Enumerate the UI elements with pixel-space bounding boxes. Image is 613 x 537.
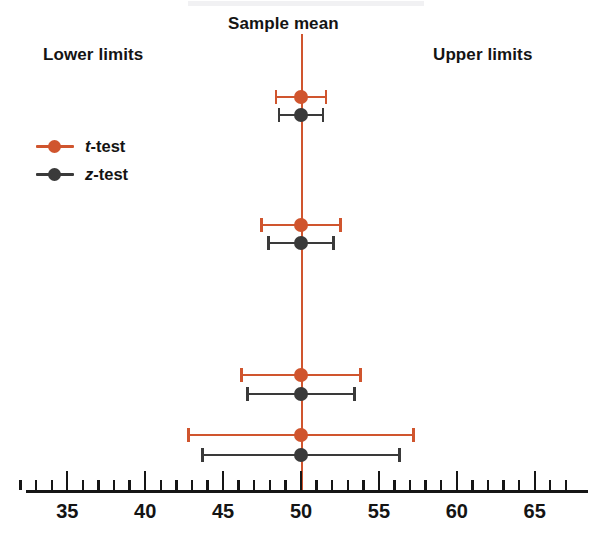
interval-cap-upper	[322, 108, 325, 122]
x-tick-label-35: 35	[56, 500, 78, 523]
x-tick-35	[66, 471, 68, 490]
x-tick-60	[456, 471, 458, 490]
x-tick-66	[549, 480, 551, 490]
x-tick-48	[269, 480, 271, 490]
x-tick-54	[362, 480, 364, 490]
interval-cap-lower	[201, 448, 204, 462]
interval-center-marker	[294, 236, 308, 250]
interval-cap-lower	[187, 428, 190, 442]
interval-cap-upper	[398, 448, 401, 462]
x-tick-34	[51, 480, 53, 490]
interval-z-test-group-3	[246, 387, 355, 401]
legend-item-z-test: z-test	[34, 160, 128, 188]
x-tick-55	[378, 471, 380, 490]
interval-cap-lower	[278, 108, 281, 122]
x-tick-52	[331, 480, 333, 490]
interval-z-test-group-1	[278, 108, 325, 122]
x-tick-label-40: 40	[134, 500, 156, 523]
x-tick-42	[175, 480, 177, 490]
x-tick-43	[191, 480, 193, 490]
x-tick-40	[144, 471, 146, 490]
interval-center-marker	[294, 368, 308, 382]
x-tick-39	[128, 480, 130, 490]
x-tick-label-60: 60	[446, 500, 468, 523]
interval-cap-lower	[267, 236, 270, 250]
x-tick-41	[160, 480, 162, 490]
x-tick-63	[502, 480, 504, 490]
interval-cap-upper	[353, 387, 356, 401]
legend-label-t-test: t-test	[85, 137, 125, 156]
x-tick-62	[487, 480, 489, 490]
x-tick-33	[35, 480, 37, 490]
legend-suffix-z: -test	[93, 165, 128, 183]
x-tick-32	[19, 480, 21, 490]
interval-t-test-group-1	[275, 90, 328, 104]
upper-limits-label: Upper limits	[433, 45, 532, 65]
chart-canvas: Sample mean Lower limits Upper limits t-…	[0, 0, 613, 537]
interval-center-marker	[294, 428, 308, 442]
x-tick-44	[206, 480, 208, 490]
x-tick-label-65: 65	[524, 500, 546, 523]
sample-mean-label: Sample mean	[228, 14, 339, 34]
interval-cap-upper	[359, 368, 362, 382]
scan-artifact	[188, 1, 424, 6]
interval-center-marker	[294, 387, 308, 401]
x-tick-45	[222, 471, 224, 490]
interval-cap-upper	[412, 428, 415, 442]
x-tick-58	[424, 480, 426, 490]
legend-suffix-t: -test	[91, 137, 126, 155]
interval-cap-upper	[332, 236, 335, 250]
legend-marker-z-test-icon	[34, 167, 76, 181]
interval-cap-lower	[246, 387, 249, 401]
x-tick-46	[237, 480, 239, 490]
interval-t-test-group-3	[240, 368, 362, 382]
interval-cap-lower	[275, 90, 278, 104]
x-tick-56	[393, 480, 395, 490]
interval-t-test-group-4	[187, 428, 414, 442]
legend-label-z-test: z-test	[85, 165, 128, 184]
interval-t-test-group-2	[260, 218, 341, 232]
x-tick-label-50: 50	[290, 500, 312, 523]
interval-cap-upper	[339, 218, 342, 232]
interval-cap-lower	[240, 368, 243, 382]
interval-cap-lower	[260, 218, 263, 232]
x-tick-49	[284, 480, 286, 490]
interval-cap-upper	[325, 90, 328, 104]
x-tick-label-55: 55	[368, 500, 390, 523]
x-tick-36	[82, 480, 84, 490]
x-tick-37	[97, 480, 99, 490]
interval-center-marker	[294, 108, 308, 122]
legend-item-t-test: t-test	[34, 132, 128, 160]
interval-z-test-group-2	[267, 236, 336, 250]
x-tick-53	[347, 480, 349, 490]
x-tick-65	[534, 471, 536, 490]
lower-limits-label: Lower limits	[43, 45, 143, 65]
interval-center-marker	[294, 448, 308, 462]
x-tick-label-45: 45	[212, 500, 234, 523]
x-axis-line	[26, 490, 588, 493]
legend-marker-t-test-icon	[34, 139, 76, 153]
interval-z-test-group-4	[201, 448, 400, 462]
x-tick-38	[113, 480, 115, 490]
x-tick-51	[315, 480, 317, 490]
x-tick-59	[440, 480, 442, 490]
legend-symbol-z: z	[85, 165, 93, 183]
legend: t-test z-test	[34, 132, 128, 188]
x-tick-61	[471, 480, 473, 490]
interval-center-marker	[294, 90, 308, 104]
interval-center-marker	[294, 218, 308, 232]
x-tick-57	[409, 480, 411, 490]
x-tick-64	[518, 480, 520, 490]
x-tick-67	[565, 480, 567, 490]
x-tick-47	[253, 480, 255, 490]
x-tick-50	[300, 471, 302, 490]
